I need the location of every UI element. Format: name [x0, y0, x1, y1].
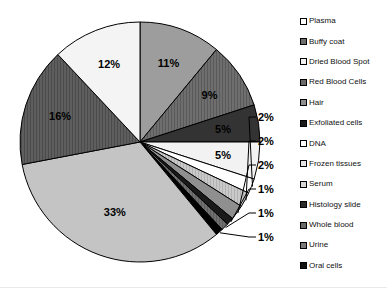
pie-data-label: 2% [258, 135, 274, 147]
legend-item[interactable]: Frozen tissues [300, 154, 384, 174]
legend-item-label: Dried Blood Spot [309, 58, 369, 66]
legend-swatch-icon [300, 160, 307, 167]
legend-item[interactable]: Urine [300, 235, 384, 255]
legend-swatch-icon [300, 58, 307, 65]
legend-item[interactable]: Dried Blood Spot [300, 52, 384, 72]
legend-item-label: DNA [309, 140, 326, 148]
pie-data-label: 1% [258, 231, 274, 243]
legend-item-label: Exfoliated cells [309, 119, 362, 127]
legend-item[interactable]: Serum [300, 174, 384, 194]
legend-item[interactable]: DNA [300, 133, 384, 153]
pie-data-label: 9% [202, 89, 218, 101]
pie-chart-svg: 11%9%5%5%2%2%2%1%1%1%33%16%12% [0, 0, 290, 288]
legend-swatch-icon [300, 79, 307, 86]
pie-data-label: 2% [258, 111, 274, 123]
pie-data-label: 5% [215, 149, 231, 161]
legend-swatch-icon [300, 262, 307, 269]
legend-swatch-icon [300, 99, 307, 106]
pie-slices [20, 22, 260, 262]
legend-item-label: Histology slide [309, 201, 361, 209]
legend-item[interactable]: Red Blood Cells [300, 72, 384, 92]
legend-item-label: Whole blood [309, 221, 353, 229]
legend-swatch-icon [300, 38, 307, 45]
legend-item-label: Serum [309, 180, 333, 188]
leader-line [220, 233, 256, 237]
legend-swatch-icon [300, 140, 307, 147]
legend-item-label: Red Blood Cells [309, 78, 366, 86]
legend-swatch-icon [300, 120, 307, 127]
legend-swatch-icon [300, 242, 307, 249]
pie-data-label: 11% [158, 57, 180, 69]
legend-item[interactable]: Plasma [300, 11, 384, 31]
pie-data-label: 1% [258, 207, 274, 219]
pie-data-label: 16% [49, 110, 71, 122]
legend-swatch-icon [300, 222, 307, 229]
pie-chart-plot-area: 11%9%5%5%2%2%2%1%1%1%33%16%12% [0, 0, 290, 288]
chart-legend: PlasmaBuffy coatDried Blood SpotRed Bloo… [300, 11, 384, 277]
legend-item[interactable]: Whole blood [300, 215, 384, 235]
legend-swatch-icon [300, 18, 307, 25]
legend-item-label: Urine [309, 241, 328, 249]
legend-item-label: Oral cells [309, 262, 342, 270]
legend-swatch-icon [300, 201, 307, 208]
pie-data-label: 12% [98, 58, 120, 70]
legend-item[interactable]: Histology slide [300, 195, 384, 215]
pie-data-label: 1% [258, 183, 274, 195]
legend-item[interactable]: Oral cells [300, 256, 384, 276]
legend-item[interactable]: Hair [300, 93, 384, 113]
legend-item-label: Hair [309, 99, 324, 107]
pie-data-label: 33% [104, 206, 126, 218]
pie-chart-figure: 11%9%5%5%2%2%2%1%1%1%33%16%12% PlasmaBuf… [0, 0, 387, 288]
pie-data-label: 5% [215, 123, 231, 135]
legend-swatch-icon [300, 181, 307, 188]
pie-data-label: 2% [258, 159, 274, 171]
legend-item-label: Plasma [309, 17, 336, 25]
legend-item[interactable]: Buffy coat [300, 31, 384, 51]
legend-item-label: Buffy coat [309, 38, 344, 46]
legend-item-label: Frozen tissues [309, 160, 361, 168]
legend-item[interactable]: Exfoliated cells [300, 113, 384, 133]
